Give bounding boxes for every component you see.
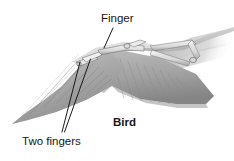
label-two-fingers: Two fingers: [22, 136, 81, 148]
wrist-joint: [190, 57, 197, 62]
label-finger: Finger: [101, 13, 134, 25]
primary-feathers: [12, 48, 124, 124]
finger-knuckle: [124, 44, 130, 49]
label-bird: Bird: [113, 117, 136, 129]
bird-wing-figure: Finger Two fingers Bird: [0, 0, 234, 161]
